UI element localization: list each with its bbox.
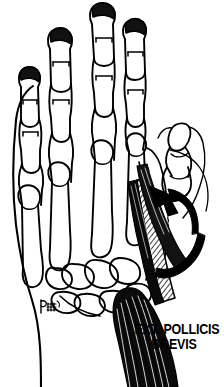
anatomical-illustration: EXT. POLLICIS BREVIS — [0, 0, 224, 387]
hand-anatomy-drawing — [0, 0, 224, 387]
